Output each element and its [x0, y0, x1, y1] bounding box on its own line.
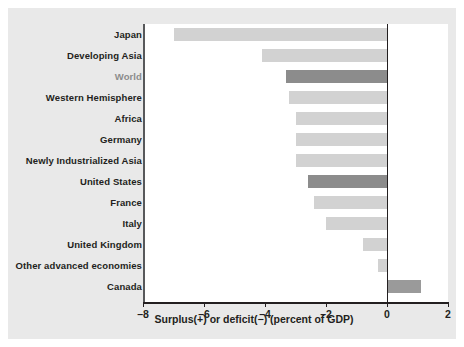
- category-label-germany: Germany: [100, 133, 142, 147]
- bar-world: [286, 70, 387, 83]
- bar-africa: [296, 112, 388, 125]
- category-label-africa: Africa: [114, 112, 142, 126]
- plot-area: –8–6–4–202: [143, 24, 448, 302]
- bar-united-kingdom: [363, 238, 387, 251]
- y-axis-line: [143, 24, 145, 302]
- bar-united-states: [308, 175, 387, 188]
- bar-developing-asia: [262, 49, 387, 62]
- category-label-france: France: [110, 196, 142, 210]
- bar-japan: [174, 28, 388, 41]
- category-label-column: Japan Developing Asia World Western Hemi…: [8, 24, 146, 302]
- category-label-italy: Italy: [122, 217, 142, 231]
- x-tick-5: [448, 302, 449, 307]
- x-tick-2: [265, 302, 266, 307]
- bar-germany: [296, 133, 388, 146]
- category-label-japan: Japan: [114, 28, 142, 42]
- x-tick-4: [387, 302, 388, 307]
- category-label-world: World: [115, 70, 142, 84]
- category-label-western-hemisphere: Western Hemisphere: [46, 91, 142, 105]
- bar-other-advanced-economies: [378, 259, 387, 272]
- bar-italy: [326, 217, 387, 230]
- x-axis-title: Surplus(+) or deficit(−) (percent of GDP…: [8, 313, 456, 325]
- x-axis-line: [143, 302, 449, 304]
- category-label-canada: Canada: [107, 280, 142, 294]
- category-label-newly-industrialized-asia: Newly Industrialized Asia: [26, 154, 142, 168]
- x-tick-0: [143, 302, 144, 307]
- category-label-developing-asia: Developing Asia: [67, 49, 142, 63]
- chart-figure: Japan Developing Asia World Western Hemi…: [8, 8, 456, 339]
- category-label-united-kingdom: United Kingdom: [67, 238, 142, 252]
- bar-newly-industrialized-asia: [296, 154, 388, 167]
- bar-france: [314, 196, 387, 209]
- zero-reference-line: [387, 24, 388, 302]
- bar-western-hemisphere: [289, 91, 387, 104]
- x-tick-3: [326, 302, 327, 307]
- x-tick-1: [204, 302, 205, 307]
- bar-canada: [387, 280, 421, 293]
- category-label-united-states: United States: [80, 175, 142, 189]
- category-label-other-advanced-economies: Other advanced economies: [16, 259, 142, 273]
